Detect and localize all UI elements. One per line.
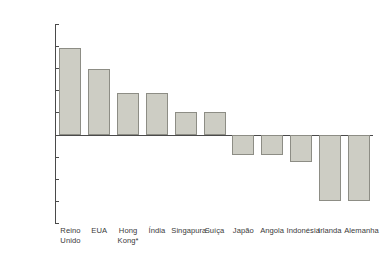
bar-slot: [88, 24, 110, 223]
bar: [88, 69, 110, 134]
bar: [59, 48, 81, 134]
x-axis-labels: Reino UnidoEUAHong Kong*ÍndiaSingapuraSu…: [56, 226, 373, 256]
x-axis-label: EUA: [85, 226, 114, 236]
x-axis-label: Hong Kong*: [114, 226, 143, 245]
bar: [117, 93, 139, 134]
x-axis-label: Suíça: [200, 226, 229, 236]
bar: [204, 112, 226, 134]
x-axis-label: Singapura: [171, 226, 200, 236]
bar-slot: [319, 24, 341, 223]
y-tick-mark: [55, 223, 59, 224]
x-axis-label: Índia: [142, 226, 171, 236]
x-axis-label: Reino Unido: [56, 226, 85, 245]
bar: [290, 135, 312, 162]
x-axis-label: Japão: [229, 226, 258, 236]
bar: [261, 135, 283, 156]
bar: [146, 93, 168, 134]
bar-slot: [117, 24, 139, 223]
x-axis-label: Irlanda: [315, 226, 344, 236]
bar: [175, 112, 197, 134]
bar: [232, 135, 254, 156]
bar-slot: [261, 24, 283, 223]
x-axis-label: Angola: [258, 226, 287, 236]
bar-slot: [232, 24, 254, 223]
bar: [319, 135, 341, 201]
bar-slot: [175, 24, 197, 223]
bar-slot: [59, 24, 81, 223]
bar-slot: [348, 24, 370, 223]
bar-series: [56, 24, 373, 223]
x-axis-label: Alemanha: [344, 226, 373, 236]
bar-chart: 25.00020.00015.00010.0005.0000–5.000–10.…: [0, 0, 380, 258]
bar-slot: [204, 24, 226, 223]
x-axis-label: Indonésia: [287, 226, 316, 236]
bar-slot: [290, 24, 312, 223]
bar: [348, 135, 370, 201]
bar-slot: [146, 24, 168, 223]
